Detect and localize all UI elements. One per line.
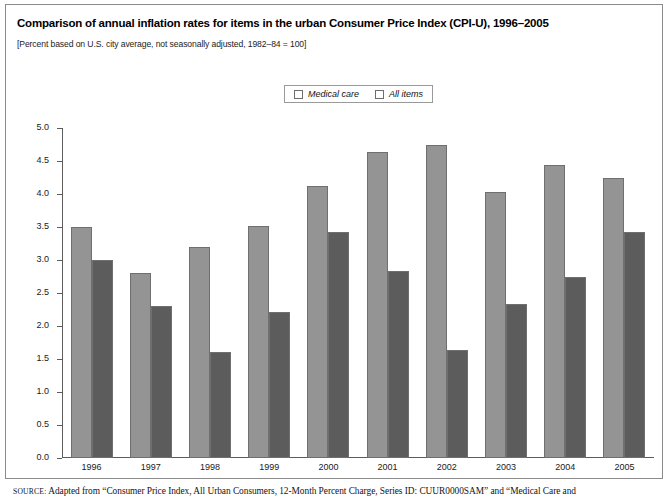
x-axis-tick-label: 2000 [299,462,358,472]
source-note: SOURCE: Adapted from “Consumer Price Ind… [13,486,661,497]
chart-subtitle: [Percent based on U.S. city average, not… [17,39,647,49]
source-keyword: SOURCE: [13,487,46,496]
bar-all-items [388,271,409,458]
y-axis-tick-label: 2.0 [36,320,49,330]
y-axis-tick-label: 2.5 [36,287,49,297]
bar-medical-care [189,247,210,458]
y-axis-tick-label: 1.5 [36,353,49,363]
x-axis-tick-label: 2003 [476,462,535,472]
legend-label-all-items: All items [389,89,423,99]
bar-medical-care [307,186,328,458]
legend-label-medical-care: Medical care [308,89,359,99]
y-axis-tick-label: 4.0 [36,188,49,198]
bar-medical-care [130,273,151,458]
bar-group: 2003 [476,128,535,458]
bar-all-items [269,312,290,458]
y-axis-tick-label: 1.0 [36,386,49,396]
bar-medical-care [603,178,624,458]
bar-medical-care [71,227,92,458]
bar-group: 2004 [536,128,595,458]
bar-medical-care [367,152,388,458]
source-text: Adapted from “Consumer Price Index, All … [48,486,576,496]
y-axis-tick-label: 3.0 [36,254,49,264]
bar-all-items [624,232,645,458]
plot-area: 5.04.54.03.53.02.52.01.51.00.50.0 199619… [62,128,654,458]
bar-group: 1997 [121,128,180,458]
y-axis-tick-label: 4.5 [36,155,49,165]
bar-medical-care [248,226,269,458]
bar-all-items [565,277,586,458]
bar-group: 1996 [62,128,121,458]
bar-groups: 1996199719981999200020012002200320042005 [62,128,654,458]
bar-group: 2000 [299,128,358,458]
y-axis-tick-label: 0.0 [36,452,49,462]
bar-group: 1998 [180,128,239,458]
x-axis-tick-label: 1998 [180,462,239,472]
x-axis-tick-label: 1997 [121,462,180,472]
y-axis-tick-label: 3.5 [36,221,49,231]
x-axis-tick-label: 2002 [417,462,476,472]
bar-all-items [151,306,172,458]
x-axis-tick-label: 1996 [62,462,121,472]
y-axis-tick: 0.0 [57,458,62,459]
legend-item-all-items: All items [375,89,423,99]
figure-frame: Comparison of annual inflation rates for… [5,4,663,479]
legend-item-medical-care: Medical care [294,89,359,99]
bar-all-items [210,352,231,458]
bar-medical-care [426,145,447,458]
bar-medical-care [544,165,565,458]
y-axis-tick-label: 5.0 [36,122,49,132]
chart-legend: Medical care All items [284,85,433,103]
legend-swatch-medical-care [294,90,303,99]
bar-all-items [92,260,113,458]
y-axis-tick-label: 0.5 [36,419,49,429]
legend-swatch-all-items [375,90,384,99]
bar-all-items [506,304,527,458]
x-axis-tick-label: 2005 [595,462,654,472]
bar-group: 1999 [240,128,299,458]
bar-group: 2001 [358,128,417,458]
bar-all-items [447,350,468,458]
x-axis-tick-label: 2004 [536,462,595,472]
x-axis-tick-label: 1999 [240,462,299,472]
bar-group: 2002 [417,128,476,458]
x-axis-tick-label: 2001 [358,462,417,472]
bar-all-items [328,232,349,458]
bar-group: 2005 [595,128,654,458]
bar-medical-care [485,192,506,458]
page-title: Comparison of annual inflation rates for… [17,17,647,30]
